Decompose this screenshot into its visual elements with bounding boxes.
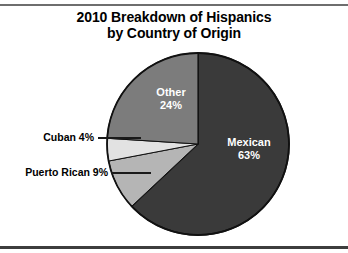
pie-chart-figure: 2010 Breakdown of Hispanics by Country o… — [0, 0, 348, 253]
pie-label-cuban: Cuban 4% — [10, 131, 94, 143]
pie-label-mexican-name: Mexican — [227, 136, 270, 148]
pie-label-puerto-rican: Puerto Rican 9% — [4, 166, 108, 178]
chart-title-line-1: 2010 Breakdown of Hispanics — [77, 9, 272, 25]
pie-label-mexican-percent: 63% — [238, 149, 260, 161]
leader-line-cuban — [98, 137, 141, 139]
pie-label-other: Other 24% — [140, 86, 202, 112]
figure-bottom-rule — [0, 246, 348, 249]
pie-label-other-percent: 24% — [160, 99, 182, 111]
chart-title-line-2: by Country of Origin — [0, 25, 348, 41]
chart-title: 2010 Breakdown of Hispanics by Country o… — [0, 9, 348, 41]
leader-line-puerto-rican — [111, 172, 151, 174]
pie-label-mexican: Mexican 63% — [214, 136, 284, 162]
figure-top-rule — [0, 4, 348, 6]
pie-label-other-name: Other — [156, 86, 185, 98]
